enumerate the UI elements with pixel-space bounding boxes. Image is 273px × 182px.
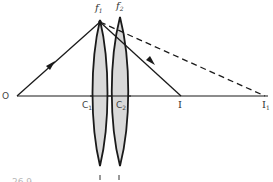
- label-f1: f1: [94, 2, 103, 14]
- label-image1: I1: [262, 99, 270, 111]
- label-image: I: [178, 99, 182, 110]
- lens-2: [112, 17, 129, 166]
- label-object: O: [2, 91, 9, 101]
- lens-ray-diagram: O f1 f2 C1 C2 I I1 26.9: [0, 0, 273, 182]
- incident-ray: [17, 22, 100, 96]
- lens1-top-point: [98, 20, 102, 24]
- refracted-ray-arrow-icon: [146, 56, 155, 65]
- lens-1: [93, 20, 108, 166]
- label-c1: C1: [82, 100, 92, 111]
- label-f2: f2: [115, 0, 124, 12]
- figure-number: 26.9: [12, 177, 32, 182]
